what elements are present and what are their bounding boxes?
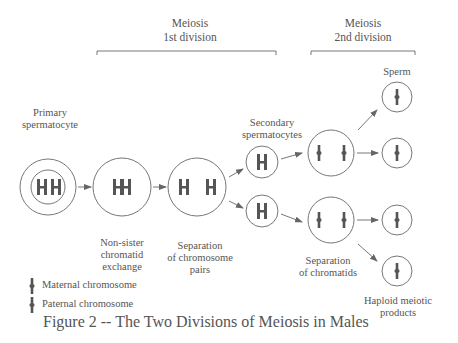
- haploid-cell: [382, 205, 412, 235]
- primary-spermatocyte-cell: [20, 159, 76, 215]
- haploid-cell: [382, 138, 412, 168]
- header-line: 2nd division: [323, 30, 403, 44]
- second-division-cell-bottom: [308, 197, 354, 243]
- label-line: Primary: [15, 107, 85, 119]
- separation-pairs-cell: [168, 158, 226, 216]
- figure-caption: Figure 2 -- The Two Divisions of Meiosis…: [43, 313, 369, 331]
- arrow: [229, 169, 243, 177]
- label-separation-pairs: Separation of chromosome pairs: [160, 240, 240, 276]
- label-line: Separation: [288, 255, 368, 267]
- label-sperm: Sperm: [377, 66, 417, 78]
- label-separation-chromatids: Separation of chromatids: [288, 255, 368, 279]
- label-line: spermatocyte: [15, 119, 85, 131]
- bracket-meiosis-1: [97, 51, 276, 55]
- label-secondary-spermatocytes: Secondary spermatocytes: [232, 117, 312, 141]
- secondary-spermatocyte-top: [246, 146, 278, 178]
- label-line: Non-sister: [92, 237, 152, 249]
- label-line: pairs: [160, 264, 240, 276]
- label-primary-spermatocyte: Primary spermatocyte: [15, 107, 85, 131]
- label-line: of chromosome: [160, 252, 240, 264]
- secondary-spermatocyte-bottom: [246, 195, 278, 227]
- maternal-chromosome-icon: [29, 278, 34, 294]
- sperm-cell: [382, 82, 412, 112]
- label-line: Secondary: [232, 117, 312, 129]
- label-line: spermatocytes: [232, 129, 312, 141]
- second-division-cell-top: [308, 130, 354, 176]
- label-line: Separation: [160, 240, 240, 252]
- header-line: Meiosis: [323, 16, 403, 30]
- label-non-sister-exchange: Non-sister chromatid exchange: [92, 237, 152, 273]
- arrow: [281, 153, 302, 159]
- meiosis-diagram: [0, 0, 458, 343]
- header-meiosis-2: Meiosis 2nd division: [323, 16, 403, 44]
- header-line: Meiosis: [150, 16, 230, 30]
- paternal-chromosome-icon: [29, 297, 34, 313]
- haploid-cell: [382, 256, 412, 286]
- legend-paternal: Paternal chromosome: [42, 298, 133, 309]
- bracket-meiosis-2: [311, 51, 415, 55]
- label-line: chromatid: [92, 249, 152, 261]
- arrow: [358, 110, 377, 130]
- legend-maternal: Maternal chromosome: [42, 279, 137, 290]
- header-line: 1st division: [150, 30, 230, 44]
- label-line: exchange: [92, 261, 152, 273]
- header-meiosis-1: Meiosis 1st division: [150, 16, 230, 44]
- arrow: [281, 214, 302, 222]
- exchange-cell: [93, 158, 151, 216]
- label-line: Haploid meiotic: [356, 295, 440, 307]
- arrow: [229, 201, 243, 208]
- label-line: of chromatids: [288, 267, 368, 279]
